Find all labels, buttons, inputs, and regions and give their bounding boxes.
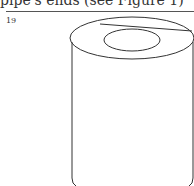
pipe-outer-rim [70,17,194,59]
pipe-right-side [189,42,193,186]
pipe-figure [0,0,194,186]
pipe-inner-rim [104,29,160,51]
pipe-left-side [72,42,76,186]
